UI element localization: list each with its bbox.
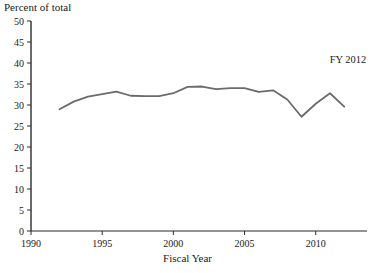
x-tick-label: 1990 xyxy=(21,238,41,249)
y-tick-label: 0 xyxy=(19,226,24,237)
y-tick-label: 30 xyxy=(14,100,24,111)
y-axis-ticks: 05101520253035404550 xyxy=(14,16,31,237)
y-tick-label: 35 xyxy=(14,79,24,90)
x-tick-label: 2000 xyxy=(163,238,183,249)
x-tick-label: 2005 xyxy=(235,238,255,249)
y-tick-label: 20 xyxy=(14,142,24,153)
y-tick-label: 15 xyxy=(14,163,24,174)
x-tick-label: 1995 xyxy=(92,238,112,249)
data-series-line xyxy=(59,87,344,117)
y-tick-label: 45 xyxy=(14,37,24,48)
x-axis-label: Fiscal Year xyxy=(0,252,375,264)
y-tick-label: 50 xyxy=(14,16,24,27)
line-chart-plot: 05101520253035404550 1990199520002005201… xyxy=(0,0,375,273)
y-tick-label: 25 xyxy=(14,121,24,132)
x-tick-label: 2010 xyxy=(306,238,326,249)
y-tick-label: 5 xyxy=(19,205,24,216)
y-tick-label: 40 xyxy=(14,58,24,69)
x-axis-ticks: 19901995200020052010 xyxy=(21,231,326,249)
chart-page: Percent of total FY 2012 051015202530354… xyxy=(0,0,375,273)
y-tick-label: 10 xyxy=(14,184,24,195)
